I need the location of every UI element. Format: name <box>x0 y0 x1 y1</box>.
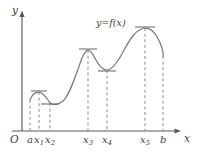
x-tick-label-x4: x4 <box>102 134 112 147</box>
x-tick-sub-x1: 1 <box>40 139 44 147</box>
x-tick-label-x1: x1 <box>34 134 44 147</box>
y-axis-arrowhead <box>19 11 24 18</box>
x-tick-sub-x5: 5 <box>146 139 150 147</box>
x-tick-sub-x2: 2 <box>50 139 55 147</box>
x-axis-label: x <box>184 132 190 144</box>
x-tick-sub-x4: 4 <box>107 139 112 147</box>
function-graph-figure: y x O y=f(x) a x1 x2 x3 x4 x5 b <box>0 0 197 164</box>
graph-canvas: y x O y=f(x) a x1 x2 x3 x4 x5 b <box>0 0 197 164</box>
x-tick-label-a: a <box>27 134 33 145</box>
x-tick-label-x3: x3 <box>83 134 93 147</box>
y-axis-label: y <box>11 4 19 16</box>
x-tick-label-x2: x2 <box>45 134 55 147</box>
x-tick-label-b: b <box>160 134 166 145</box>
x-tick-sub-x3: 3 <box>89 139 93 147</box>
curve-equation-label: y=f(x) <box>95 17 126 28</box>
function-curve <box>30 28 163 104</box>
dashed-dropline-group <box>30 28 163 131</box>
tangent-mark-group <box>31 27 155 104</box>
x-tick-label-group: a x1 x2 x3 x4 x5 b <box>27 134 166 147</box>
x-axis-arrowhead <box>175 128 182 133</box>
x-tick-label-x5: x5 <box>140 134 150 147</box>
origin-label: O <box>10 133 19 145</box>
